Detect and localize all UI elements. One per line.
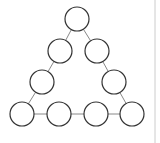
circle-node-bottom-2: [47, 102, 71, 126]
circle-node-right-3: [102, 70, 126, 94]
circle-node-bottom-3: [84, 102, 108, 126]
circle-node-top: [65, 7, 89, 31]
edge-right-2-right-3: [103, 62, 108, 72]
circle-node-bottom-4: [120, 102, 144, 126]
circle-node-right-2: [85, 39, 109, 63]
circle-node-left-3: [30, 70, 54, 94]
edge-left-2-left-3: [48, 61, 54, 71]
edge-top-left-2: [66, 30, 72, 41]
circle-node-left-2: [48, 39, 72, 63]
edge-top-right-2: [83, 29, 90, 41]
circle-nodes: [10, 7, 144, 126]
edge-left-3-bottom-1: [28, 92, 35, 104]
circle-node-bottom-1: [10, 102, 34, 126]
edge-right-3-bottom-4: [120, 92, 126, 103]
circle-triangle-diagram: [0, 0, 160, 143]
